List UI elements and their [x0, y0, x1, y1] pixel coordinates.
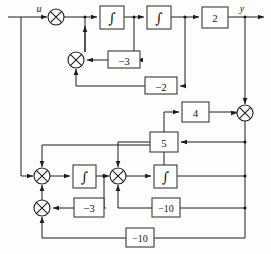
gain-blocks: −3 −2 2 4 5 −3 [74, 7, 228, 247]
summing-junction-input[interactable] [48, 9, 64, 25]
gain-minus-3-upper-label: −3 [118, 55, 130, 67]
gain-minus-10-bottom-label: −10 [132, 233, 148, 244]
integrator-2-label: ∫ [155, 10, 162, 26]
junction-dot-bus-integ4 [243, 174, 246, 177]
junction-dot-y [243, 15, 246, 18]
input-signal-label-u: u [37, 3, 42, 14]
summing-junction-output-mix[interactable] [237, 105, 253, 121]
summing-junction-lower-left[interactable] [34, 168, 50, 184]
wire-group-top [8, 15, 264, 176]
junction-dot-integ2-out [183, 15, 186, 18]
block-diagram-svg: −3 −2 2 4 5 −3 [0, 0, 271, 254]
wire-group-mid-right [118, 112, 247, 238]
gain-block-5[interactable]: 5 [150, 132, 178, 152]
block-diagram-canvas: −3 −2 2 4 5 −3 [0, 0, 271, 254]
wire-group-lower [42, 142, 247, 238]
gain-block-minus-3-lower[interactable]: −3 [74, 198, 104, 217]
junction-dot-bus-gainm10 [243, 206, 246, 209]
gain-minus-3-lower-label: −3 [83, 202, 95, 214]
summing-junction-upper-feedback[interactable] [68, 52, 84, 68]
junction-dot-bus-gain5 [243, 140, 246, 143]
gain-block-minus-3-upper[interactable]: −3 [108, 51, 140, 68]
output-signal-label-y: y [239, 3, 245, 14]
gain-block-4[interactable]: 4 [182, 102, 209, 122]
gain-minus-10-middle-label: −10 [158, 203, 174, 214]
integrator-4-label: ∫ [162, 169, 169, 185]
integrator-block-1[interactable]: ∫ [100, 6, 124, 29]
gain-block-minus-10-middle[interactable]: −10 [152, 198, 180, 217]
gain-minus-2-label: −2 [155, 81, 167, 93]
summing-junction-lower-feedback[interactable] [34, 200, 50, 216]
gain-block-2[interactable]: 2 [202, 7, 228, 28]
summing-junction-lower-mid[interactable] [110, 168, 126, 184]
integrator-blocks: ∫ ∫ ∫ ∫ [73, 6, 177, 188]
integrator-block-2[interactable]: ∫ [147, 6, 171, 29]
junction-dot-top [83, 15, 86, 18]
gain-block-minus-10-bottom[interactable]: −10 [126, 228, 154, 247]
gain-block-minus-2[interactable]: −2 [145, 77, 177, 94]
gain-5-label: 5 [161, 137, 167, 149]
junction-dot-integ1-out [132, 15, 135, 18]
gain-2-label: 2 [212, 12, 218, 24]
integrator-1-label: ∫ [108, 10, 115, 26]
junction-dot-integ3-out [102, 174, 105, 177]
integrator-3-label: ∫ [81, 169, 88, 185]
integrator-block-3[interactable]: ∫ [73, 165, 96, 188]
integrator-block-4[interactable]: ∫ [154, 165, 177, 188]
gain-4-label: 4 [193, 107, 199, 119]
